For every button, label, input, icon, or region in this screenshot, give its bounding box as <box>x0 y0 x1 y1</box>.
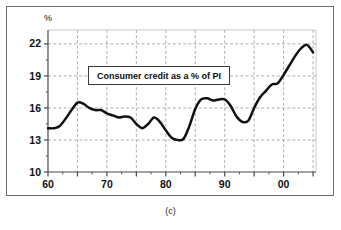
y-tick-label: 13 <box>29 134 41 146</box>
y-axis-unit-label: % <box>44 13 52 23</box>
plot-area-border <box>48 30 316 172</box>
data-series-line <box>48 45 313 141</box>
series-label-text: Consumer credit as a % of PI <box>97 71 221 81</box>
x-tick-label: 80 <box>160 178 172 190</box>
y-tick-label: 16 <box>29 102 41 114</box>
x-tick-label: 70 <box>101 178 113 190</box>
figure-panel: 10131619226070809000 % Consumer credit a… <box>0 0 341 230</box>
y-tick-label: 22 <box>29 37 41 49</box>
axes <box>48 30 316 172</box>
gridlines <box>48 30 316 172</box>
x-tick-label: 60 <box>42 178 54 190</box>
x-axis-ticks: 6070809000 <box>42 172 313 190</box>
series-label-box: Consumer credit as a % of PI <box>88 66 230 85</box>
x-tick-label: 90 <box>219 178 231 190</box>
y-tick-label: 10 <box>29 166 41 178</box>
chart-plot: 10131619226070809000 <box>0 0 341 230</box>
y-axis-ticks: 1013161922 <box>29 37 48 177</box>
y-tick-label: 19 <box>29 70 41 82</box>
figure-caption: (c) <box>0 206 341 216</box>
x-tick-label: 00 <box>278 178 290 190</box>
